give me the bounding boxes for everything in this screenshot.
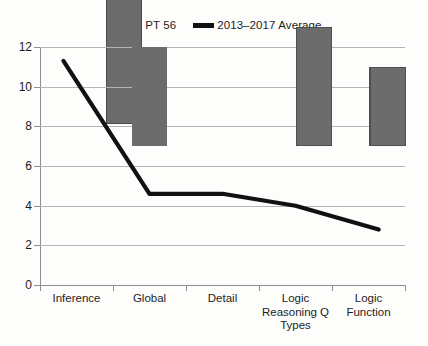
y-tick-label-6: 6 bbox=[0, 159, 32, 173]
x-tick-mark-3 bbox=[259, 285, 260, 291]
x-tick-mark-2 bbox=[186, 285, 187, 291]
y-tick-label-12: 12 bbox=[0, 40, 32, 54]
y-axis-labels: 12 10 8 6 4 2 0 bbox=[0, 0, 32, 346]
y-tick-label-10: 10 bbox=[0, 80, 32, 94]
y-tick-label-0: 0 bbox=[0, 278, 32, 292]
line-swatch-icon bbox=[193, 23, 214, 28]
x-tick-mark-5 bbox=[405, 285, 406, 291]
combo-bar-line-chart: PT 56 2013–2017 Average 12 10 8 6 4 2 0 bbox=[0, 0, 428, 346]
y-tick-label-2: 2 bbox=[0, 238, 32, 252]
x-axis-line bbox=[40, 285, 406, 286]
x-tick-mark-1 bbox=[113, 285, 114, 291]
legend-label-pt-56: PT 56 bbox=[145, 19, 176, 31]
y-tick-label-8: 8 bbox=[0, 119, 32, 133]
x-label-detail: Detail bbox=[186, 292, 259, 306]
x-tick-mark-0 bbox=[40, 285, 41, 291]
average-trend-polyline bbox=[63, 61, 378, 230]
line-series-average bbox=[40, 47, 405, 285]
x-label-global: Global bbox=[113, 292, 186, 306]
x-label-inference: Inference bbox=[40, 292, 113, 306]
x-axis-labels: Inference Global Detail Logic Reasoning … bbox=[40, 292, 405, 346]
x-tick-mark-4 bbox=[332, 285, 333, 291]
x-label-logic-function: Logic Function bbox=[332, 292, 405, 319]
chart-legend: PT 56 2013–2017 Average bbox=[0, 16, 428, 34]
y-tick-label-4: 4 bbox=[0, 199, 32, 213]
x-label-logic-reasoning: Logic Reasoning Q Types bbox=[259, 292, 332, 333]
